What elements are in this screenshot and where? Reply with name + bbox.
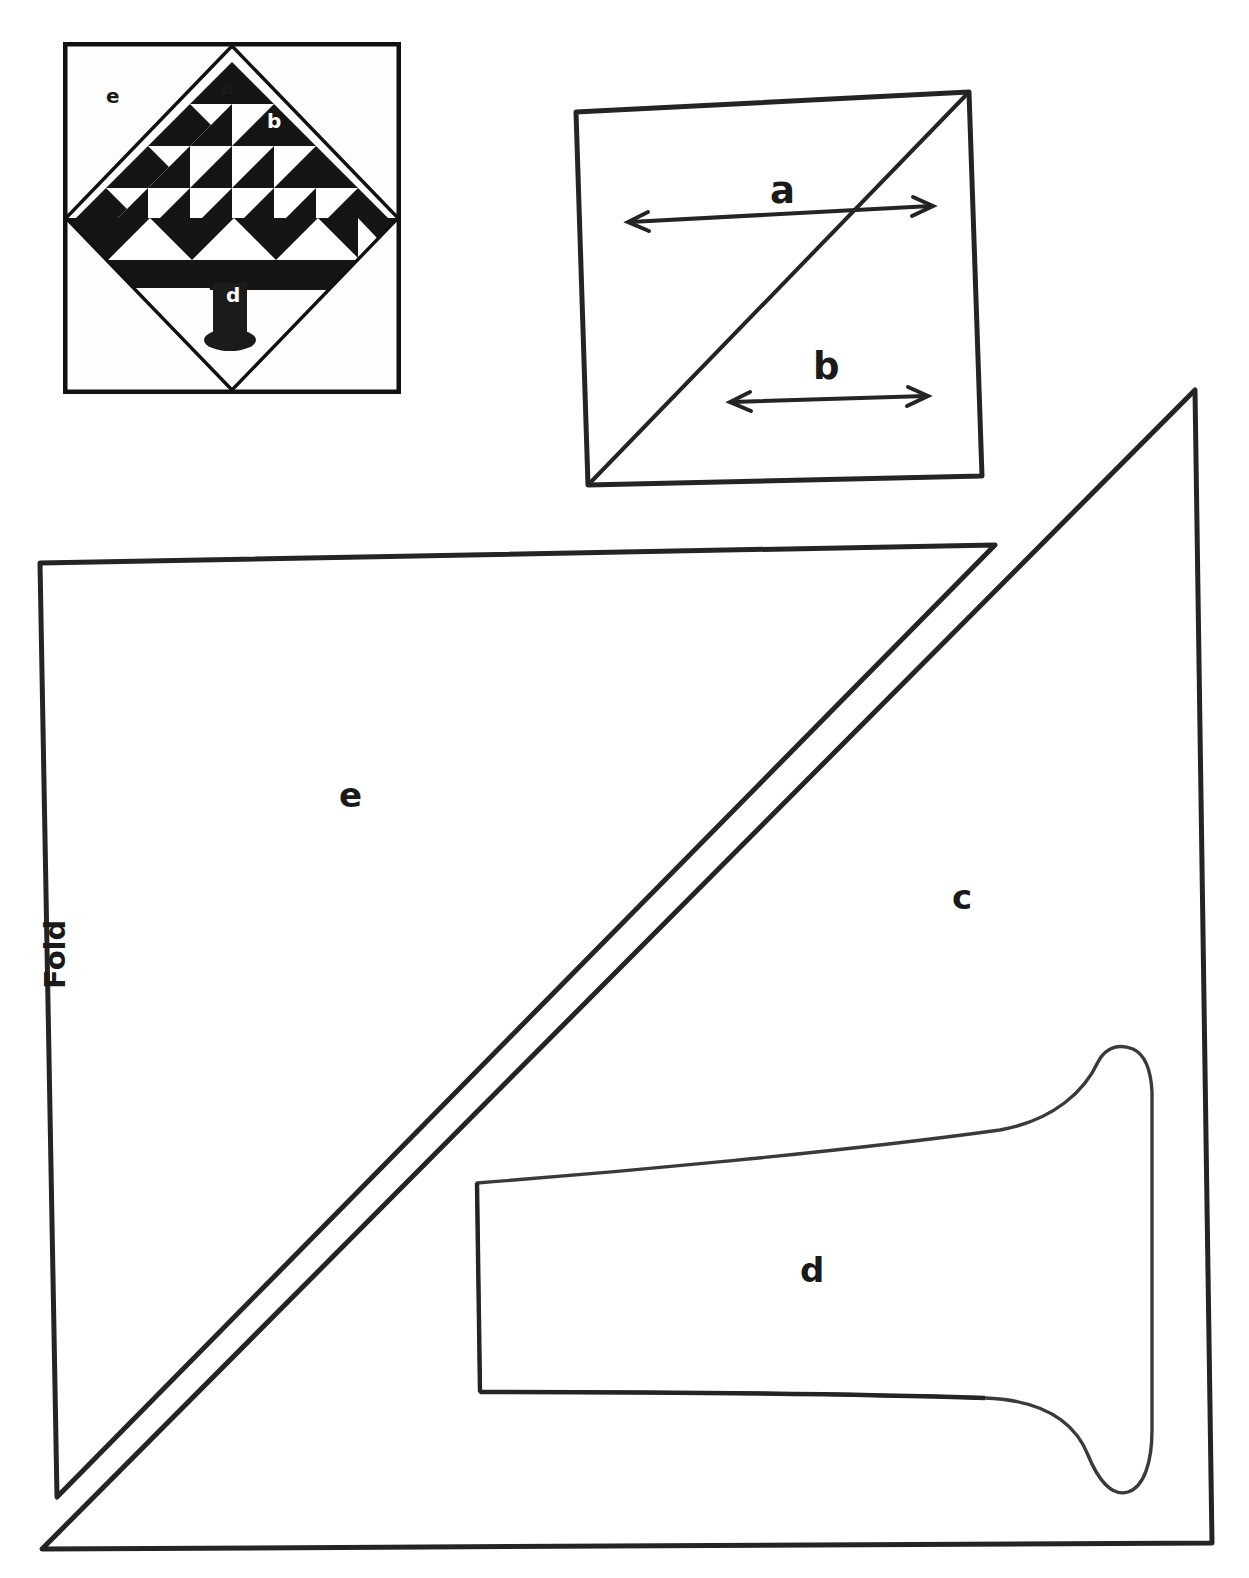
pattern-sheet-page: e a b c d a b e c d Fold xyxy=(0,0,1249,1578)
photo-label-d: d xyxy=(226,285,240,305)
pattern-piece-e xyxy=(40,545,995,1497)
square-with-diagonal-diagram xyxy=(576,92,982,485)
piece-label-d: d xyxy=(800,1253,824,1287)
fold-label: Fold xyxy=(41,920,70,989)
measure-label-a: a xyxy=(770,172,795,209)
photo-label-a: a xyxy=(221,77,235,97)
piece-label-e: e xyxy=(339,778,362,812)
photo-label-c: c xyxy=(222,232,234,252)
pattern-sheet-artwork xyxy=(0,0,1249,1578)
measure-label-b: b xyxy=(813,348,840,385)
piece-label-c: c xyxy=(952,880,972,914)
photo-label-e: e xyxy=(106,86,120,106)
measure-arrow-b xyxy=(730,387,928,411)
photo-label-b: b xyxy=(267,111,281,131)
pattern-piece-c xyxy=(42,390,1212,1549)
